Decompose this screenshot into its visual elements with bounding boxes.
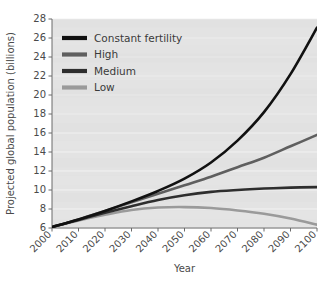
x-tick-label: 2010	[54, 229, 80, 255]
y-tick-label: 10	[33, 184, 46, 195]
y-tick-label: 28	[33, 13, 46, 24]
x-tick-labels: 2000201020202030204020502060207020802090…	[28, 229, 319, 255]
x-tick-label: 2000	[28, 229, 54, 255]
legend-label: Low	[94, 81, 115, 93]
y-tick-label: 16	[33, 127, 46, 138]
x-tick-label: 2050	[160, 229, 186, 255]
legend-label: High	[94, 48, 118, 60]
population-projection-chart: 6810121416182022242628 20002010202020302…	[0, 0, 335, 283]
y-axis	[49, 19, 53, 228]
y-tick-label: 26	[33, 32, 46, 43]
y-tick-label: 14	[33, 146, 46, 157]
y-tick-label: 20	[33, 89, 46, 100]
x-tick-label: 2070	[213, 229, 239, 255]
x-tick-label: 2030	[107, 229, 133, 255]
x-axis	[52, 228, 317, 232]
x-tick-label: 2040	[134, 229, 160, 255]
y-tick-label: 22	[33, 70, 46, 81]
y-tick-label: 18	[33, 108, 46, 119]
y-tick-label: 12	[33, 165, 46, 176]
y-tick-label: 8	[40, 203, 46, 214]
x-tick-label: 2100	[293, 229, 319, 255]
y-axis-title: Projected global population (billions)	[5, 32, 16, 215]
y-tick-labels: 6810121416182022242628	[33, 13, 46, 233]
x-tick-label: 2080	[240, 229, 266, 255]
x-tick-label: 2020	[81, 229, 107, 255]
x-tick-label: 2060	[187, 229, 213, 255]
x-tick-label: 2090	[266, 229, 292, 255]
figure-container: 6810121416182022242628 20002010202020302…	[0, 0, 335, 283]
legend-label: Medium	[94, 65, 136, 77]
y-tick-label: 24	[33, 51, 46, 62]
figure-caption	[0, 271, 335, 283]
legend-label: Constant fertility	[94, 32, 182, 44]
